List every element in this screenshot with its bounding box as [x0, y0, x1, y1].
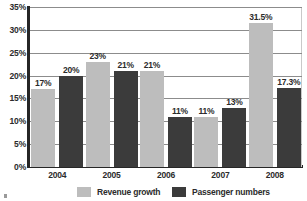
corner-artifact-mark	[4, 194, 7, 198]
bar-group: 11%13%	[194, 7, 246, 167]
x-axis-category-label: 2008	[266, 170, 284, 180]
bar-group: 31.5%17.3%	[249, 7, 301, 167]
bar-value-label: 21%	[117, 60, 133, 70]
bar: 17.3%	[277, 88, 301, 167]
legend-label: Passenger numbers	[192, 187, 270, 197]
bar: 21%	[114, 71, 138, 167]
x-axis-category-label: 2005	[103, 170, 121, 180]
legend-entry[interactable]: Revenue growth	[77, 186, 160, 198]
x-axis-category-label: 2004	[48, 170, 66, 180]
bar: 11%	[168, 117, 192, 167]
legend-swatch	[77, 187, 91, 197]
bar-value-label: 17.3%	[277, 77, 300, 87]
legend-label: Revenue growth	[97, 187, 160, 197]
y-axis-tick-label: 25%	[10, 48, 26, 58]
bar-group: 23%21%	[86, 7, 138, 167]
bar-group: 21%11%	[140, 7, 192, 167]
bar: 13%	[222, 108, 246, 167]
legend-swatch	[172, 187, 186, 197]
plot-area: 17%20%23%21%21%11%11%13%31.5%17.3%	[30, 7, 302, 167]
bar-value-label: 11%	[198, 106, 214, 116]
bar-value-label: 23%	[89, 51, 105, 61]
bar-group: 17%20%	[31, 7, 83, 167]
chart-legend: Revenue growthPassenger numbers	[0, 186, 307, 199]
bar: 23%	[86, 62, 110, 167]
y-axis-tick-label: 10%	[10, 116, 26, 126]
y-axis-tick-label: 15%	[10, 93, 26, 103]
bar-value-label: 20%	[63, 65, 79, 75]
bar: 11%	[194, 117, 218, 167]
bar-value-label: 17%	[35, 78, 51, 88]
bar-value-label: 13%	[226, 97, 242, 107]
bar-value-label: 21%	[144, 60, 160, 70]
y-axis-tick-label: 0%	[14, 162, 26, 172]
x-axis-category-label: 2007	[211, 170, 229, 180]
bar: 20%	[59, 76, 83, 167]
y-axis-tick-label: 20%	[10, 71, 26, 81]
plot-right-edge	[301, 7, 302, 167]
y-axis-tick-label: 35%	[10, 2, 26, 12]
y-axis-tick-label: 5%	[14, 139, 26, 149]
x-axis-category-labels: 20042005200620072008	[30, 170, 302, 184]
bar-value-label: 31.5%	[249, 12, 272, 22]
y-axis-tick-label: 30%	[10, 25, 26, 35]
bar: 17%	[31, 89, 55, 167]
bar: 31.5%	[249, 23, 273, 167]
bar: 21%	[140, 71, 164, 167]
legend-entry[interactable]: Passenger numbers	[172, 186, 270, 198]
chart-screenshot: 0%5%10%15%20%25%30%35% 17%20%23%21%21%11…	[0, 0, 307, 201]
x-axis-category-label: 2006	[157, 170, 175, 180]
y-axis-tick-labels: 0%5%10%15%20%25%30%35%	[0, 0, 28, 170]
bar-value-label: 11%	[172, 106, 188, 116]
